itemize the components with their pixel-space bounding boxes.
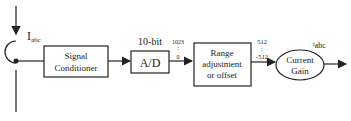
output-label: iabc: [313, 41, 326, 50]
svg-text:or offset: or offset: [207, 70, 238, 80]
svg-text:Conditioner: Conditioner: [55, 63, 98, 73]
conductor: [5, 6, 19, 112]
svg-text:A/D: A/D: [140, 56, 161, 70]
input-current-label: Iabc: [27, 29, 41, 44]
svg-text:adjustment: adjustment: [202, 59, 242, 69]
svg-text:-512: -512: [256, 53, 268, 60]
svg-text:Current: Current: [286, 55, 314, 65]
svg-text:Range: Range: [211, 48, 234, 58]
svg-text::: :: [261, 45, 263, 52]
svg-text:Signal: Signal: [64, 51, 88, 61]
svg-text:0: 0: [177, 54, 180, 60]
svg-text:512: 512: [257, 38, 267, 45]
svg-text:Gain: Gain: [291, 66, 309, 76]
svg-text::: :: [177, 45, 179, 51]
adc-caption: 10-bit: [138, 36, 162, 47]
